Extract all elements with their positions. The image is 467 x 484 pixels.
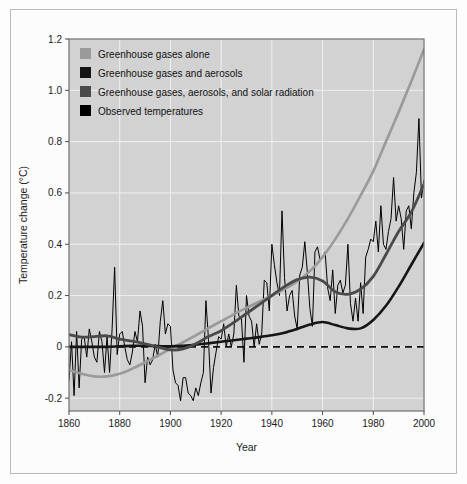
legend-swatch (80, 67, 91, 78)
y-tick-label: 0.8 (48, 136, 62, 147)
legend-label: Observed temperatures (98, 106, 203, 117)
figure-canvas: 18601880190019201940196019802000Year-0.2… (0, 0, 467, 484)
legend-label: Greenhouse gases and aerosols (98, 68, 243, 79)
figure-frame: 18601880190019201940196019802000Year-0.2… (10, 9, 457, 474)
y-tick-label: 0.4 (48, 239, 62, 250)
x-tick-label: 1980 (362, 418, 385, 429)
x-tick-label: 1880 (109, 418, 132, 429)
legend-swatch (80, 86, 91, 97)
y-tick-label: -0.2 (45, 393, 63, 404)
y-tick-label: 1.0 (48, 85, 62, 96)
legend-label: Greenhouse gases alone (98, 49, 210, 60)
y-tick-label: 1.2 (48, 34, 62, 45)
x-tick-label: 2000 (413, 418, 436, 429)
x-tick-label: 1960 (311, 418, 334, 429)
x-axis-title: Year (236, 441, 258, 453)
x-tick-label: 1920 (210, 418, 233, 429)
x-tick-label: 1860 (58, 418, 81, 429)
x-tick-label: 1900 (159, 418, 182, 429)
y-axis: -0.200.20.40.60.81.01.2Temperature chang… (17, 34, 69, 404)
legend-label: Greenhouse gases, aerosols, and solar ra… (98, 87, 314, 98)
climate-attribution-chart: 18601880190019201940196019802000Year-0.2… (11, 10, 458, 475)
legend-swatch (80, 48, 91, 59)
legend-swatch (80, 105, 91, 116)
x-axis: 18601880190019201940196019802000Year (58, 411, 436, 453)
x-tick-label: 1940 (261, 418, 284, 429)
y-tick-label: 0.2 (48, 290, 62, 301)
y-tick-label: 0.6 (48, 187, 62, 198)
y-axis-title: Temperature change (°C) (17, 166, 29, 284)
y-tick-label: 0 (56, 341, 62, 352)
